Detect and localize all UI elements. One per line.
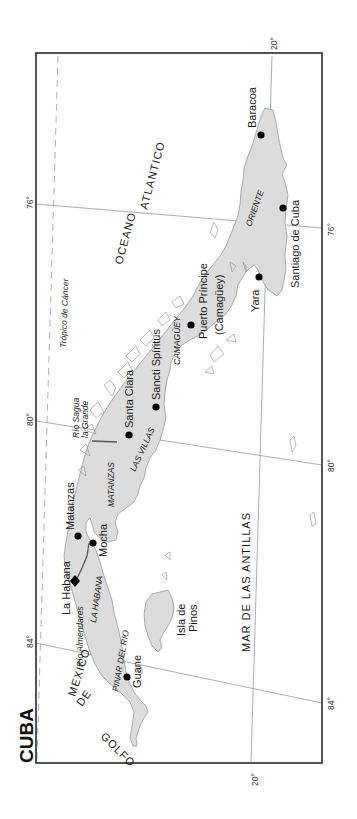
lat-20-bottom-label: 20° — [250, 773, 260, 786]
river-sagua-label-line2: la Grande — [80, 400, 90, 438]
city-santiago: Santiago de Cuba — [289, 199, 301, 288]
province-camaguey: CAMAGÜEY — [172, 315, 182, 365]
city-santa-clara: Santa Clara — [123, 369, 135, 428]
cuba-map: 20° 20° 76° 76° 80° 80° 84° 84° CUBA Tró… — [0, 0, 357, 819]
city-la-habana: La Habana — [60, 560, 72, 615]
city-matanzas: Matanzas — [64, 482, 76, 530]
ocean-word-oceano: OCEANO — [112, 211, 137, 266]
puerto-principe-dot — [187, 321, 194, 328]
guane-dot — [123, 673, 130, 680]
city-mocha: Mocha — [97, 523, 109, 557]
mocha-dot — [89, 539, 96, 546]
isla-de-pinos — [144, 590, 174, 652]
matanzas-dot — [74, 532, 81, 539]
province-matanzas: MATANZAS — [106, 462, 116, 507]
lon-80-right-label: 80° — [326, 459, 336, 472]
city-puerto-principe: Puerto Príncipe — [197, 263, 209, 339]
sancti-spiritus-dot — [152, 403, 159, 410]
ocean-word-atlantico: ATLANTICO — [137, 140, 167, 211]
lon-76-right-label: 76° — [326, 223, 336, 236]
yara-dot — [255, 273, 262, 280]
city-sancti-spiritus: Sancti Spíritus — [150, 329, 162, 400]
city-guane: Guane — [131, 655, 143, 688]
river-almendares-label: Río Almendares — [75, 606, 85, 667]
city-camaguey: (Camagüey) — [213, 274, 225, 335]
city-baracoa: Baracoa — [246, 86, 258, 128]
lon-76-left-label: 76° — [25, 196, 35, 209]
santa-clara-dot — [125, 431, 132, 438]
city-yara: Yara — [249, 289, 261, 312]
map-title: CUBA — [16, 708, 37, 763]
lat-20-top-label: 20° — [269, 37, 279, 50]
island-isla-de-pinos-line2: Pinos — [187, 604, 199, 632]
lon-84-right-label: 84° — [326, 697, 336, 710]
tropic-label: Trópico de Cáncer — [58, 277, 70, 348]
island-isla-de-pinos-line1: Isla de — [175, 604, 187, 636]
lon-80-left-label: 80° — [25, 413, 35, 426]
caribbean-sea-label: MAR DE LAS ANTILLAS — [240, 512, 252, 652]
baracoa-dot — [257, 131, 264, 138]
lon-84-left-label: 84° — [25, 635, 35, 648]
santiago-dot — [279, 204, 286, 211]
tropic-of-cancer-line — [37, 56, 58, 760]
